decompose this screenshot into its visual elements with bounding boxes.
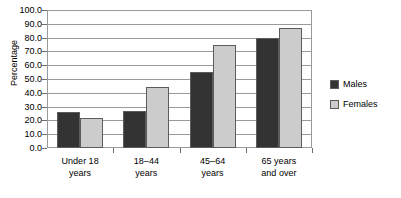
x-axis-tick-mark <box>180 148 181 153</box>
x-axis-tick-mark <box>113 148 114 153</box>
y-axis-tick-mark <box>42 148 47 149</box>
y-axis-tick-label: 90.0 <box>12 19 42 28</box>
legend-swatch-females <box>330 100 339 109</box>
y-axis-tick-label: 20.0 <box>12 116 42 125</box>
category-label-line2: years <box>180 167 246 179</box>
x-axis-category-labels: Under 18years18–44years45–64years65 year… <box>47 155 312 191</box>
y-axis-tick-label: 0.0 <box>12 144 42 153</box>
bars-layer <box>47 10 312 148</box>
category-label-line2: years <box>113 167 179 179</box>
x-axis-category-label: Under 18years <box>47 155 113 179</box>
x-axis-tick-mark <box>246 148 247 153</box>
category-label-line1: Under 18 <box>47 155 113 167</box>
x-axis-category-label: 18–44years <box>113 155 179 179</box>
legend-item-females[interactable]: Females <box>330 96 400 112</box>
category-label-line2: and over <box>246 167 312 179</box>
x-axis-category-label: 65 yearsand over <box>246 155 312 179</box>
legend-item-males[interactable]: Males <box>330 76 400 92</box>
y-axis-tick-label: 30.0 <box>12 102 42 111</box>
category-label-line1: 18–44 <box>113 155 179 167</box>
bar-females-4 <box>279 28 302 148</box>
bar-females-2 <box>146 87 169 148</box>
chart-legend: MalesFemales <box>330 76 400 116</box>
bar-females-3 <box>213 45 236 149</box>
y-axis-tick-label: 70.0 <box>12 47 42 56</box>
y-axis-tick-label: 80.0 <box>12 33 42 42</box>
y-axis-tick-label: 60.0 <box>12 61 42 70</box>
y-axis-tick-labels: 0.010.020.030.040.050.060.070.080.090.01… <box>12 10 42 148</box>
x-axis-tick-mark <box>312 148 313 153</box>
bar-chart: Percentage 0.010.020.030.040.050.060.070… <box>0 0 401 198</box>
y-axis-tick-label: 50.0 <box>12 75 42 84</box>
y-axis-tick-label: 40.0 <box>12 88 42 97</box>
category-label-line1: 45–64 <box>180 155 246 167</box>
category-label-line1: 65 years <box>246 155 312 167</box>
legend-label-females: Females <box>343 99 378 109</box>
bar-males-2 <box>123 111 146 148</box>
bar-females-1 <box>80 118 103 148</box>
y-axis-tick-label: 10.0 <box>12 130 42 139</box>
bar-males-4 <box>256 38 279 148</box>
bar-males-1 <box>57 112 80 148</box>
legend-label-males: Males <box>343 79 367 89</box>
x-axis-category-label: 45–64years <box>180 155 246 179</box>
category-label-line2: years <box>47 167 113 179</box>
y-axis-tick-label: 100.0 <box>12 6 42 15</box>
bar-males-3 <box>190 72 213 148</box>
legend-swatch-males <box>330 80 339 89</box>
